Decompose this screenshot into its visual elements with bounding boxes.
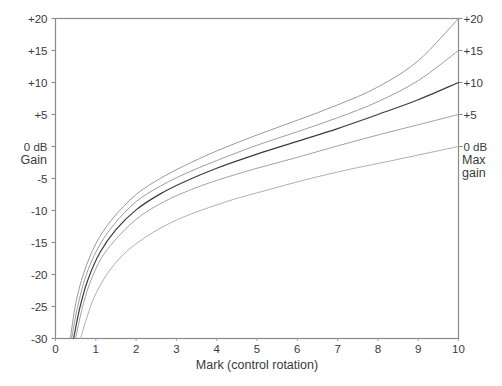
y-tick-label: -10 [31,205,48,217]
y-tick-label-right: 0 dB [464,141,488,153]
y-tick-label-right: +20 [464,13,484,25]
y-axis-left-labels: +20+15+10+50 dB-5-10-15-20-25-30 [24,13,48,345]
y-tick-label: +15 [28,45,48,57]
cut-off-caption-strip [0,374,502,386]
x-tick-label: 7 [334,343,340,355]
x-tick-label: 3 [173,343,179,355]
y-tick-label-right: +15 [464,45,484,57]
y-tick-label: +5 [34,109,47,121]
y-tick-label: -30 [31,333,48,345]
x-axis-title: Mark (control rotation) [196,358,318,372]
x-tick-label: 4 [213,343,220,355]
y-tick-label: +10 [28,77,48,89]
y-tick-label: -20 [31,269,48,281]
x-tick-label: 8 [375,343,381,355]
chart-page: +20+15+10+50 dB-5-10-15-20-25-30 +20+15+… [0,0,502,386]
y-axis-title-right-line2: gain [462,166,486,180]
x-tick-label: 1 [93,343,99,355]
y-tick-label: 0 dB [24,141,48,153]
gain-vs-mark-chart: +20+15+10+50 dB-5-10-15-20-25-30 +20+15+… [0,0,502,386]
y-tick-label: -25 [31,301,48,313]
y-axis-title: Gain [21,153,47,167]
x-axis-labels: 012345678910 [52,343,465,355]
x-tick-label: 5 [254,343,260,355]
x-tick-label: 2 [133,343,139,355]
y-tick-label-right: +5 [464,109,477,121]
plot-frame [56,19,459,339]
x-tick-label: 6 [294,343,300,355]
x-tick-label: 10 [452,343,465,355]
y-axis-right-labels: +20+15+10+50 dB [464,13,488,153]
x-tick-label: 0 [52,343,58,355]
y-tick-label-right: +10 [464,77,484,89]
y-tick-label: -15 [31,237,48,249]
y-axis-title-right-line1: Max [462,153,486,167]
y-tick-label: +20 [28,13,48,25]
y-tick-label: -5 [37,173,47,185]
x-tick-label: 9 [415,343,421,355]
